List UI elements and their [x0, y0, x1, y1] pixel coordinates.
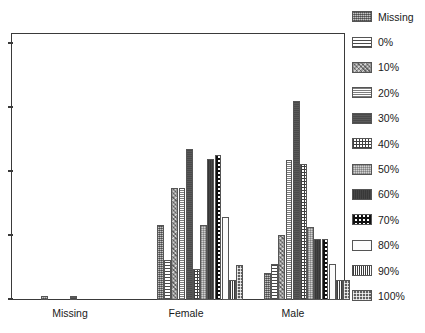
legend-label: 0%	[378, 36, 393, 48]
legend-swatch-icon-80pct	[352, 240, 372, 251]
legend-swatch-icon-0pct	[352, 37, 372, 48]
legend-label: 80%	[378, 239, 399, 251]
bar-female-20pct	[179, 188, 186, 300]
bar-male-90pct	[336, 280, 343, 300]
bar-missing-missing	[41, 296, 48, 300]
legend-label: 70%	[378, 214, 399, 226]
bar-female-100pct	[236, 265, 243, 300]
bar-missing-30pct	[70, 296, 77, 300]
bar-female-30pct	[186, 149, 193, 300]
bar-female-90pct	[229, 280, 236, 300]
legend-item-30pct: 30%	[352, 106, 425, 131]
bar-male-10pct	[278, 235, 285, 300]
bar-female-50pct	[200, 225, 207, 300]
x-axis-label-female: Female	[146, 307, 226, 319]
bar-male-70pct	[322, 239, 329, 300]
legend-label: 20%	[378, 87, 399, 99]
bar-male-30pct	[293, 101, 300, 300]
legend-label: 100%	[378, 290, 405, 302]
bar-chart: MissingFemaleMale Missing0%10%20%30%40%5…	[0, 0, 425, 333]
legend-item-40pct: 40%	[352, 131, 425, 156]
bar-male-0pct	[271, 264, 278, 300]
legend-swatch-icon-100pct	[352, 290, 372, 301]
bar-female-0pct	[164, 260, 171, 300]
legend-swatch-icon-70pct	[352, 214, 372, 225]
bar-female-40pct	[193, 269, 200, 300]
legend-swatch-icon-40pct	[352, 138, 372, 149]
legend-swatch-icon-missing	[352, 11, 372, 22]
legend-item-100pct: 100%	[352, 283, 425, 308]
legend-item-90pct: 90%	[352, 258, 425, 283]
legend-item-20pct: 20%	[352, 80, 425, 105]
legend-item-70pct: 70%	[352, 207, 425, 232]
bar-male-50pct	[307, 227, 314, 300]
legend-label: 60%	[378, 188, 399, 200]
legend-item-50pct: 50%	[352, 156, 425, 181]
chart-legend: Missing0%10%20%30%40%50%60%70%80%90%100%	[352, 4, 425, 309]
bar-male-20pct	[286, 160, 293, 300]
legend-item-80pct: 80%	[352, 233, 425, 258]
bar-female-60pct	[207, 159, 214, 301]
legend-swatch-icon-50pct	[352, 164, 372, 175]
legend-label: 30%	[378, 112, 399, 124]
bar-male-80pct	[329, 264, 336, 300]
bar-male-missing	[264, 273, 271, 300]
bar-male-60pct	[314, 239, 321, 300]
bar-female-80pct	[222, 217, 229, 300]
bar-male-100pct	[343, 280, 350, 300]
legend-swatch-icon-30pct	[352, 113, 372, 124]
legend-label: 50%	[378, 163, 399, 175]
legend-swatch-icon-10pct	[352, 62, 372, 73]
bars-layer	[11, 33, 345, 300]
legend-item-60pct: 60%	[352, 182, 425, 207]
legend-label: 90%	[378, 265, 399, 277]
legend-swatch-icon-90pct	[352, 265, 372, 276]
legend-swatch-icon-20pct	[352, 87, 372, 98]
bar-male-40pct	[300, 164, 307, 300]
bar-female-missing	[157, 225, 164, 300]
legend-label: Missing	[378, 11, 414, 23]
legend-label: 40%	[378, 138, 399, 150]
legend-label: 10%	[378, 61, 399, 73]
legend-item-missing: Missing	[352, 4, 425, 29]
legend-swatch-icon-60pct	[352, 189, 372, 200]
legend-item-10pct: 10%	[352, 55, 425, 80]
bar-female-70pct	[215, 155, 222, 301]
x-axis-label-male: Male	[253, 307, 333, 319]
x-axis-label-missing: Missing	[30, 307, 110, 319]
legend-item-0pct: 0%	[352, 29, 425, 54]
bar-female-10pct	[171, 188, 178, 300]
